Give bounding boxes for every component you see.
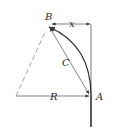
label-A: A <box>95 91 103 102</box>
geometry-diagram: B x C R A <box>0 0 116 134</box>
label-B: B <box>44 11 52 22</box>
label-C: C <box>62 57 70 68</box>
label-R: R <box>49 91 58 102</box>
label-x: x <box>69 18 75 29</box>
radius-dashed <box>16 30 46 96</box>
